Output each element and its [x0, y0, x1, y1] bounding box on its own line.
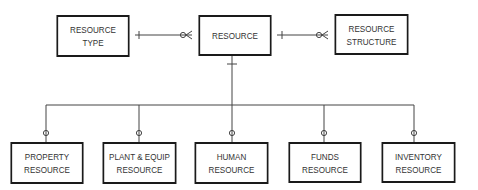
- entity-label: PLANT & EQUIP: [109, 150, 170, 163]
- entity-label: INVENTORY: [395, 150, 442, 163]
- entity-resource-type: RESOURCE TYPE: [56, 15, 129, 57]
- entity-label: RESOURCE: [209, 163, 255, 176]
- entity-label: RESOURCE: [396, 163, 442, 176]
- entity-label: TYPE: [82, 36, 103, 49]
- entity-label: PROPERTY: [25, 150, 69, 163]
- entity-label: STRUCTURE: [347, 35, 397, 48]
- entity-property-resource: PROPERTY RESOURCE: [10, 142, 83, 184]
- entity-label: RESOURCE: [349, 22, 395, 35]
- entity-plant-equip-resource: PLANT & EQUIP RESOURCE: [103, 142, 177, 184]
- entity-label: FUNDS: [311, 150, 339, 163]
- entity-label: RESOURCE: [70, 23, 116, 36]
- entity-resource-structure: RESOURCE STRUCTURE: [335, 14, 409, 55]
- entity-inventory-resource: INVENTORY RESOURCE: [382, 142, 456, 183]
- entity-label: RESOURCE: [212, 29, 258, 42]
- entity-human-resource: HUMAN RESOURCE: [195, 142, 269, 184]
- entity-funds-resource: FUNDS RESOURCE: [288, 142, 361, 183]
- entity-resource: RESOURCE: [198, 15, 271, 56]
- entity-label: HUMAN: [217, 150, 247, 163]
- entity-label: RESOURCE: [117, 163, 163, 176]
- entity-label: RESOURCE: [24, 163, 70, 176]
- entity-label: RESOURCE: [302, 163, 348, 176]
